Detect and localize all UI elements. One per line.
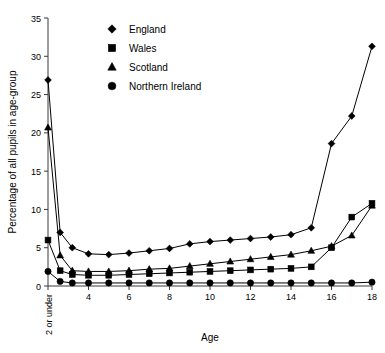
data-point-circle (106, 280, 112, 286)
x-tick-label: 8 (167, 292, 172, 302)
y-ticks: 05101520253035 (31, 14, 48, 292)
data-point-diamond (146, 247, 153, 254)
data-point-circle (227, 280, 233, 286)
data-point-circle (349, 280, 355, 286)
data-point-diamond (207, 238, 214, 245)
data-point-square (308, 264, 314, 270)
x-tick-label: 6 (126, 292, 131, 302)
data-point-square (108, 44, 115, 51)
data-point-diamond (267, 234, 274, 241)
data-point-square (349, 214, 355, 220)
y-tick-label: 30 (31, 52, 41, 62)
data-point-circle (126, 280, 132, 286)
x-tick-label: 14 (286, 292, 296, 302)
y-tick-label: 0 (36, 282, 41, 292)
y-tick-label: 20 (31, 128, 41, 138)
data-point-diamond (108, 25, 116, 33)
y-tick-label: 10 (31, 205, 41, 215)
data-point-circle (69, 280, 75, 286)
data-point-diamond (308, 224, 315, 231)
series-england (45, 43, 376, 258)
x-tick-label: 16 (326, 292, 336, 302)
data-point-diamond (85, 250, 92, 257)
data-point-circle (247, 280, 253, 286)
data-point-square (227, 268, 233, 274)
data-point-square (207, 269, 213, 275)
legend: EnglandWalesScotlandNorthern Ireland (108, 24, 201, 92)
x-tick-label: 12 (245, 292, 255, 302)
legend-item-wales[interactable]: Wales (108, 43, 156, 54)
data-point-triangle (57, 252, 64, 258)
y-tick-label: 5 (36, 243, 41, 253)
data-point-circle (308, 280, 314, 286)
x-tick-label: 2 or under (44, 294, 54, 335)
data-point-square (57, 268, 63, 274)
data-point-diamond (288, 231, 295, 238)
data-point-circle (207, 280, 213, 286)
axes (48, 18, 372, 286)
data-point-circle (288, 280, 294, 286)
data-point-diamond (186, 240, 193, 247)
data-point-circle (85, 280, 91, 286)
data-point-square (45, 237, 51, 243)
line-chart: 051015202530352 or under4681012141618Age… (0, 0, 385, 353)
series-line (48, 46, 372, 254)
data-point-circle (268, 280, 274, 286)
y-tick-label: 35 (31, 14, 41, 24)
data-point-square (288, 265, 294, 271)
data-point-triangle (45, 124, 52, 130)
data-point-diamond (328, 140, 335, 147)
data-point-diamond (247, 235, 254, 242)
data-point-circle (328, 280, 334, 286)
y-axis-title: Percentage of all pupils in age-group (7, 70, 18, 233)
chart-container: 051015202530352 or under4681012141618Age… (0, 0, 385, 353)
x-tick-label: 10 (205, 292, 215, 302)
x-tick-label: 18 (367, 292, 377, 302)
data-point-circle (166, 280, 172, 286)
legend-label: Scotland (129, 62, 168, 73)
x-axis-title: Age (201, 332, 219, 343)
data-point-circle (369, 279, 375, 285)
series-scotland (45, 124, 376, 274)
data-point-diamond (227, 237, 234, 244)
data-point-circle (146, 280, 152, 286)
data-point-diamond (126, 250, 133, 257)
legend-item-england[interactable]: England (108, 24, 166, 35)
data-point-square (248, 267, 254, 273)
data-point-square (187, 269, 193, 275)
y-tick-label: 25 (31, 90, 41, 100)
data-point-circle (45, 268, 51, 274)
data-point-circle (108, 82, 116, 90)
x-tick-label: 4 (86, 292, 91, 302)
data-point-diamond (348, 113, 355, 120)
legend-item-northern-ireland[interactable]: Northern Ireland (108, 81, 201, 92)
data-point-circle (57, 278, 63, 284)
legend-item-scotland[interactable]: Scotland (108, 62, 168, 73)
x-ticks: 2 or under4681012141618 (44, 286, 378, 335)
data-point-diamond (369, 43, 376, 50)
data-point-square (268, 266, 274, 272)
data-point-circle (187, 280, 193, 286)
data-point-diamond (105, 251, 112, 258)
data-point-diamond (166, 245, 173, 252)
legend-label: Northern Ireland (129, 81, 201, 92)
y-tick-label: 15 (31, 167, 41, 177)
series-line (48, 128, 372, 272)
data-point-triangle (108, 63, 116, 71)
legend-label: England (129, 24, 166, 35)
legend-label: Wales (129, 43, 156, 54)
data-point-diamond (45, 77, 52, 84)
